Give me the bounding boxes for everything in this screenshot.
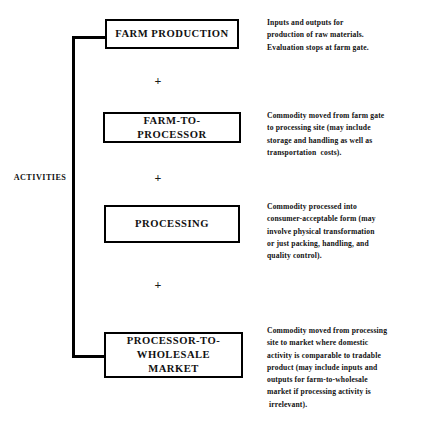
description-line: activity is comparable to tradable — [267, 350, 433, 362]
stage-box-farm-production: FARM PRODUCTION — [105, 19, 239, 49]
stage-title-processing: PROCESSING — [135, 217, 209, 231]
activities-label: ACTIVITIES — [12, 173, 68, 182]
description-line: Inputs and outputs for — [267, 17, 433, 29]
stage-description-processing: Commodity processed into consumer-accept… — [267, 201, 433, 262]
description-line: product (may include inputs and — [267, 362, 433, 374]
description-line: transportation costs). — [267, 147, 433, 159]
description-line: or just packing, handling, and — [267, 238, 433, 250]
description-line: irrelevant). — [267, 399, 433, 411]
stage-description-processor-to-wholesale-market: Commodity moved from processing site to … — [267, 325, 433, 411]
plus-connector-2: + — [150, 172, 166, 184]
description-line: involve physical transformation — [267, 226, 433, 238]
plus-connector-1: + — [150, 75, 166, 87]
description-line: Evaluation stops at farm gate. — [267, 42, 433, 54]
description-line: outputs for farm-to-wholesale — [267, 374, 433, 386]
description-line: market if processing activity is — [267, 386, 433, 398]
description-line: Commodity processed into — [267, 201, 433, 213]
description-line: Commodity moved from processing — [267, 325, 433, 337]
description-line: Commodity moved from farm gate — [267, 110, 433, 122]
description-line: to processing site (may include — [267, 122, 433, 134]
activities-bracket-spine — [72, 36, 75, 358]
stage-description-farm-production: Inputs and outputs for production of raw… — [267, 17, 433, 54]
stage-title-line-2: WHOLESALE MARKET — [110, 348, 237, 376]
activities-bracket-stub-top — [72, 36, 108, 39]
stage-title-farm-to-processor: FARM-TO-PROCESSOR — [109, 114, 235, 142]
activities-bracket-stub-bottom — [72, 355, 108, 358]
plus-connector-3: + — [150, 279, 166, 291]
stage-description-farm-to-processor: Commodity moved from farm gate to proces… — [267, 110, 433, 159]
stage-box-processor-to-wholesale-market: PROCESSOR-TO- WHOLESALE MARKET — [104, 332, 243, 378]
stage-box-processing: PROCESSING — [104, 205, 240, 243]
stage-title-farm-production: FARM PRODUCTION — [115, 27, 229, 41]
stage-box-farm-to-processor: FARM-TO-PROCESSOR — [103, 112, 241, 143]
description-line: quality control). — [267, 250, 433, 262]
stage-title-line-1: PROCESSOR-TO- — [110, 334, 237, 348]
description-line: storage and handling as well as — [267, 135, 433, 147]
description-line: consumer-acceptable form (may — [267, 213, 433, 225]
description-line: production of raw materials. — [267, 29, 433, 41]
description-line: site to market where domestic — [267, 337, 433, 349]
stage-title-processor-to-wholesale-market: PROCESSOR-TO- WHOLESALE MARKET — [110, 334, 237, 376]
diagram-canvas: ACTIVITIES FARM PRODUCTION Inputs and ou… — [0, 0, 436, 431]
